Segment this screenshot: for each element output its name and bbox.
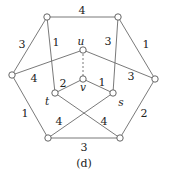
vertex-f xyxy=(117,135,123,141)
vertex-b xyxy=(115,14,121,20)
edge-t-f xyxy=(55,93,120,138)
edge-weight-label: 3 xyxy=(105,35,112,48)
edge-weight-label: 4 xyxy=(101,115,108,128)
vertex-s xyxy=(110,90,116,96)
figure-caption: (d) xyxy=(76,157,92,170)
edge-weight-label: 1 xyxy=(99,76,106,89)
edge-u-d xyxy=(83,50,155,79)
edge-weight-label: 3 xyxy=(128,70,135,83)
edge-weight-label: 4 xyxy=(56,115,63,128)
edge-weight-label: 1 xyxy=(22,107,29,120)
vertex-label-u: u xyxy=(78,35,85,47)
vertex-d xyxy=(152,76,158,82)
edge-weight-label: 4 xyxy=(31,72,38,85)
vertex-label-v: v xyxy=(80,81,86,93)
vertex-t xyxy=(52,90,58,96)
vertex-u xyxy=(80,47,86,53)
vertex-c xyxy=(9,72,15,78)
edge-weight-label: 2 xyxy=(141,107,148,120)
vertex-e xyxy=(45,135,51,141)
edge-a-c xyxy=(12,17,47,75)
vertex-label-t: t xyxy=(45,95,50,107)
vertex-a xyxy=(44,14,50,20)
edge-weight-label: 3 xyxy=(81,141,88,154)
edge-a-t xyxy=(47,17,55,93)
edge-weight-label: 1 xyxy=(53,36,60,49)
edge-c-u xyxy=(12,50,83,75)
edge-d-f xyxy=(120,79,155,138)
edge-weight-label: 1 xyxy=(143,38,150,51)
vertex-label-s: s xyxy=(118,96,124,108)
edge-weight-label: 3 xyxy=(19,38,26,51)
graph-diagram: 43112313432144 uvts (d) xyxy=(0,0,169,175)
edge-b-s xyxy=(113,17,118,93)
edge-weight-label: 4 xyxy=(79,4,86,17)
edge-weight-label: 2 xyxy=(60,77,67,90)
